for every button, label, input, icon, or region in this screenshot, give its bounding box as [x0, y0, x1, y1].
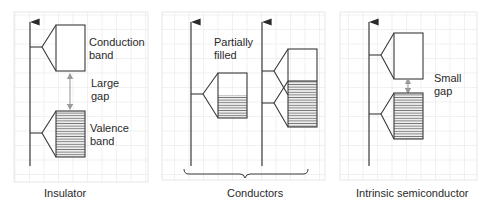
conduction-band-label: Conduction	[89, 36, 145, 48]
conduction-band-label-2: band	[89, 49, 113, 61]
panel-intrinsic-semiconductor: Small gap Intrinsic semiconductor	[340, 12, 477, 199]
partially-filled-label-2: filled	[214, 49, 237, 61]
caption-conductors: Conductors	[227, 187, 284, 199]
panel-conductors: Partially filled Conductors	[162, 12, 325, 199]
band-diagram: Conduction band Large gap Valence band I…	[0, 0, 481, 205]
panel-insulator: Conduction band Large gap Valence band I…	[14, 12, 148, 199]
caption-intrinsic-semiconductor: Intrinsic semiconductor	[356, 187, 469, 199]
large-gap-label-2: gap	[91, 90, 109, 102]
small-gap-label: Small	[434, 72, 462, 84]
large-gap-label: Large	[91, 77, 119, 89]
partially-filled-label: Partially	[214, 36, 254, 48]
caption-insulator: Insulator	[44, 187, 87, 199]
small-gap-label-2: gap	[434, 85, 452, 97]
valence-band-label-2: band	[90, 135, 114, 147]
valence-band-label: Valence	[90, 122, 129, 134]
